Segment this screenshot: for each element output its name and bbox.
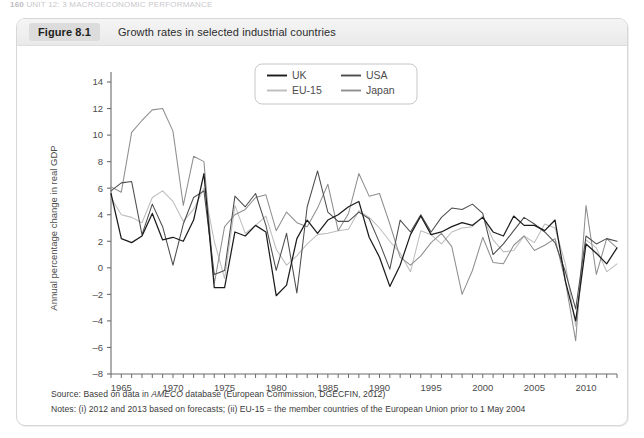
legend-label-japan: Japan (366, 84, 395, 96)
series-line-eu-15 (111, 188, 617, 326)
y-axis-tick-label: 14 (92, 76, 103, 87)
figure-panel: Figure 8.1 Growth rates in selected indu… (16, 18, 628, 426)
y-axis-tick-label: 0 (98, 262, 103, 273)
y-axis-title-text: Annual percentage change in real GDP (48, 145, 59, 310)
y-axis-tick-label: 8 (98, 156, 103, 167)
legend-label-usa: USA (366, 69, 388, 81)
y-axis-tick-label: –2 (92, 289, 103, 300)
series-line-japan (111, 109, 617, 341)
notes-line: Notes: (i) 2012 and 2013 based on foreca… (51, 402, 611, 417)
y-axis-title: Annual percentage change in real GDP (48, 145, 59, 310)
running-head-text: UNIT 12: 3 MACROECONOMIC PERFORMANCE (26, 0, 212, 9)
y-axis-tick-label: –6 (92, 342, 103, 353)
running-head: 160 UNIT 12: 3 MACROECONOMIC PERFORMANCE (10, 0, 430, 9)
source-suffix: database (European Commission, DGECFIN, … (183, 389, 385, 399)
data-series-group (111, 109, 617, 341)
figure-footnotes: Source: Based on data in AMECO database … (51, 387, 611, 417)
y-axis-tick-label: 2 (98, 236, 103, 247)
y-axis-tick-label: 10 (92, 129, 103, 140)
source-prefix: Source: Based on data in (51, 389, 151, 399)
figure-number-badge: Figure 8.1 (29, 23, 100, 41)
source-database-name: AMECO (151, 389, 183, 399)
line-chart: –8–6–4–202468101214 19651970197519801985… (17, 46, 629, 427)
running-head-page-number: 160 (10, 0, 24, 9)
y-axis-tick-label: 12 (92, 103, 103, 114)
y-axis-tick-label: –4 (92, 315, 103, 326)
y-axis: –8–6–4–202468101214 (92, 72, 111, 379)
y-axis-tick-label: 4 (98, 209, 103, 220)
legend-label-uk: UK (292, 69, 307, 81)
y-axis-tick-label: –8 (92, 368, 103, 379)
y-axis-tick-label: 6 (98, 183, 103, 194)
chart-plot-area: –8–6–4–202468101214 19651970197519801985… (17, 46, 629, 427)
legend-label-eu-15: EU-15 (292, 84, 322, 96)
figure-caption-bar: Figure 8.1 Growth rates in selected indu… (17, 19, 627, 46)
source-line: Source: Based on data in AMECO database … (51, 387, 611, 402)
chart-legend: UKUSAEU-15Japan (255, 64, 417, 104)
series-line-usa (111, 171, 617, 309)
figure-title: Growth rates in selected industrial coun… (118, 26, 336, 38)
